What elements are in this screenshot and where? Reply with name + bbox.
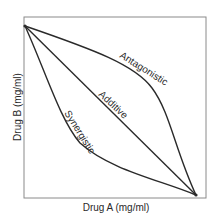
- additive-label: Additive: [97, 88, 131, 121]
- isobologram: Antagonistic Additive Synergistic Drug A…: [0, 0, 217, 220]
- y-axis-label: Drug B (mg/ml): [12, 73, 23, 141]
- synergistic-label: Synergistic: [62, 108, 97, 155]
- x-axis-label: Drug A (mg/ml): [83, 202, 150, 213]
- antagonistic-label: Antagonistic: [118, 49, 170, 87]
- end-point: [194, 193, 197, 196]
- additive-curve: [25, 26, 196, 195]
- origin-point: [23, 24, 26, 27]
